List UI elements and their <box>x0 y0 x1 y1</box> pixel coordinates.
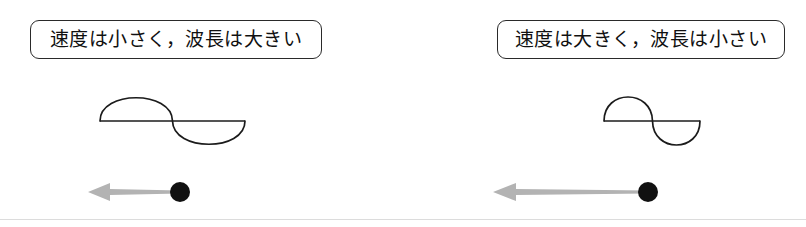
wave-short-wavelength <box>599 84 707 158</box>
wave-long-wavelength <box>92 84 252 158</box>
caption-text-slow: 速度は小さく，波長は大きい <box>50 30 303 49</box>
panel-fast-observer: 速度は大きく，波長は小さい <box>403 0 806 227</box>
caption-text-fast: 速度は大きく，波長は小さい <box>515 30 768 49</box>
particle-dot-slow <box>170 182 190 202</box>
velocity-arrow-slow <box>80 176 200 208</box>
panel-slow-source: 速度は小さく，波長は大きい <box>0 0 403 227</box>
caption-box-fast: 速度は大きく，波長は小さい <box>497 20 785 59</box>
arrow-glyph-fast <box>493 183 648 201</box>
figure-root: 速度は小さく，波長は大きい 速度は大きく，波長は小さい <box>0 0 806 227</box>
caption-box-slow: 速度は小さく，波長は大きい <box>30 20 322 59</box>
arrow-glyph-slow <box>88 183 180 201</box>
particle-dot-fast <box>638 182 658 202</box>
velocity-arrow-fast <box>488 176 668 208</box>
scan-artifact-line <box>0 219 806 220</box>
